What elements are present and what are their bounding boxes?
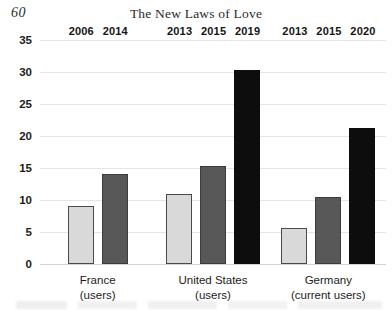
bar-group-bars: 201320152020	[271, 40, 386, 264]
bar-value-label: 2015	[201, 25, 226, 37]
bar-slot: 2014	[102, 40, 128, 264]
bar-slot: 2015	[315, 40, 341, 264]
y-axis-tick-label: 25	[19, 98, 32, 110]
category-name: Germany	[305, 274, 352, 286]
bar-value-label: 2014	[103, 25, 128, 37]
bar-value-label: 2020	[350, 25, 375, 37]
y-axis-tick-label: 15	[19, 162, 32, 174]
bar[interactable]: 2019	[234, 70, 260, 264]
bar-slot: 2020	[349, 40, 375, 264]
x-axis-category-label: Germany(current users)	[291, 273, 366, 303]
y-axis-tick-label: 20	[19, 130, 32, 142]
bar-value-label: 2015	[316, 25, 341, 37]
bar[interactable]: 2020	[349, 128, 375, 264]
bar-chart: 0510152025303520062014France(users)20132…	[0, 0, 392, 310]
bar[interactable]: 2015	[315, 197, 341, 264]
bar[interactable]: 2006	[68, 206, 94, 264]
bar-slot: 2006	[68, 40, 94, 264]
bar[interactable]: 2013	[166, 194, 192, 264]
x-axis-category-label: France(users)	[80, 273, 116, 303]
bar-slot: 2019	[234, 40, 260, 264]
bar[interactable]: 2013	[281, 228, 307, 264]
y-axis-tick-label: 30	[19, 66, 32, 78]
bar-group-bars: 20062014	[40, 40, 155, 264]
x-axis-category-label: United States(users)	[178, 273, 247, 303]
bar-slot: 2013	[166, 40, 192, 264]
bar-group: 201320152020Germany(current users)	[271, 40, 386, 264]
plot-area: 0510152025303520062014France(users)20132…	[40, 40, 386, 264]
bar[interactable]: 2015	[200, 166, 226, 264]
y-axis-tick-label: 10	[19, 194, 32, 206]
bar-slot: 2013	[281, 40, 307, 264]
bar-value-label: 2013	[282, 25, 307, 37]
bar-value-label: 2019	[235, 25, 260, 37]
category-name: France	[80, 274, 116, 286]
bar-group-bars: 201320152019	[155, 40, 270, 264]
y-axis-tick-label: 5	[26, 226, 32, 238]
bar[interactable]: 2014	[102, 174, 128, 264]
bar-value-label: 2013	[167, 25, 192, 37]
gridline-0: 0	[40, 264, 386, 265]
y-axis-tick-label: 0	[26, 258, 32, 270]
y-axis-tick-label: 35	[19, 34, 32, 46]
bar-group: 20062014France(users)	[40, 40, 155, 264]
category-name: United States	[178, 274, 247, 286]
page-text-bleed	[16, 301, 382, 309]
bar-group: 201320152019United States(users)	[155, 40, 270, 264]
bar-value-label: 2006	[69, 25, 94, 37]
bar-slot: 2015	[200, 40, 226, 264]
